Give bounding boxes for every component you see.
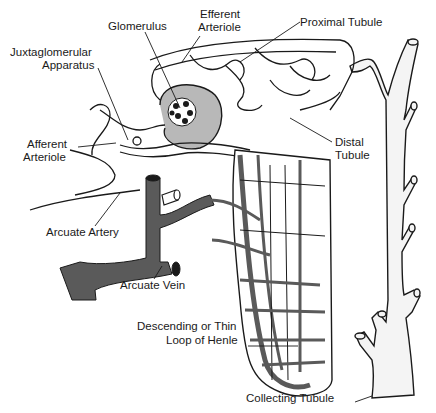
label-glomerulus: Glomerulus bbox=[108, 20, 167, 33]
label-afferent-arteriole-line1: Afferent bbox=[27, 138, 67, 151]
collecting-tubule-shape bbox=[350, 39, 420, 398]
label-juxtaglomerular-line2: Apparatus bbox=[42, 59, 94, 72]
nephron-diagram: Glomerulus Efferent Arteriole Proximal T… bbox=[0, 0, 436, 413]
label-loop-of-henle-line2: Loop of Henle bbox=[166, 334, 238, 347]
loop-of-henle-shape bbox=[210, 150, 332, 396]
label-distal-tubule-line2: Tubule bbox=[335, 149, 370, 162]
label-afferent-arteriole-line2: Arteriole bbox=[23, 151, 66, 164]
glomerulus-shape bbox=[160, 85, 222, 149]
label-arcuate-vein: Arcuate Vein bbox=[120, 279, 185, 292]
label-distal-tubule-line1: Distal bbox=[335, 136, 364, 149]
label-proximal-tubule: Proximal Tubule bbox=[300, 16, 382, 29]
label-arcuate-artery: Arcuate Artery bbox=[46, 226, 119, 239]
label-efferent-arteriole-line2: Arteriole bbox=[198, 21, 241, 34]
arcuate-artery-stub bbox=[162, 190, 180, 205]
label-loop-of-henle-line1: Descending or Thin bbox=[137, 320, 237, 333]
label-collecting-tubule: Collecting Tubule bbox=[246, 392, 334, 405]
label-juxtaglomerular-line1: Juxtaglomerular bbox=[10, 46, 92, 59]
label-efferent-arteriole-line1: Efferent bbox=[200, 8, 240, 21]
